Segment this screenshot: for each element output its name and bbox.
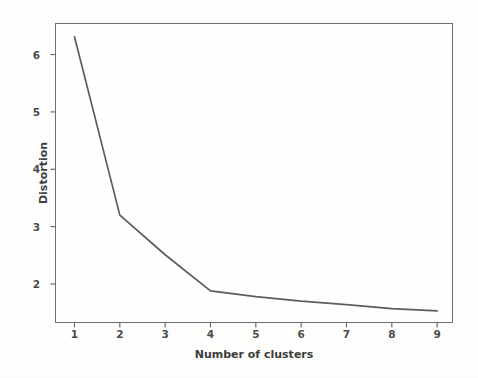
x-tick-label-6: 6 [297, 328, 304, 340]
x-tick-label-3: 3 [161, 328, 168, 340]
y-tick-label-3: 3 [33, 221, 40, 233]
y-tick-label-6: 6 [33, 49, 40, 61]
x-tick-label-9: 9 [433, 328, 440, 340]
y-tick-label-2: 2 [33, 278, 40, 290]
x-tick-label-7: 7 [343, 328, 350, 340]
x-tick-marks [74, 323, 437, 328]
x-tick-label-4: 4 [207, 328, 214, 340]
y-tick-label-5: 5 [33, 106, 40, 118]
x-tick-label-8: 8 [388, 328, 395, 340]
elbow-plot-figure: 123456789 23456 Number of clusters Disto… [0, 0, 478, 378]
x-tick-label-1: 1 [71, 328, 78, 340]
x-tick-label-2: 2 [116, 328, 123, 340]
x-axis-label: Number of clusters [195, 348, 314, 361]
x-tick-label-5: 5 [252, 328, 259, 340]
y-axis-label: Distortion [37, 142, 50, 204]
plot-axes-frame [55, 23, 453, 323]
